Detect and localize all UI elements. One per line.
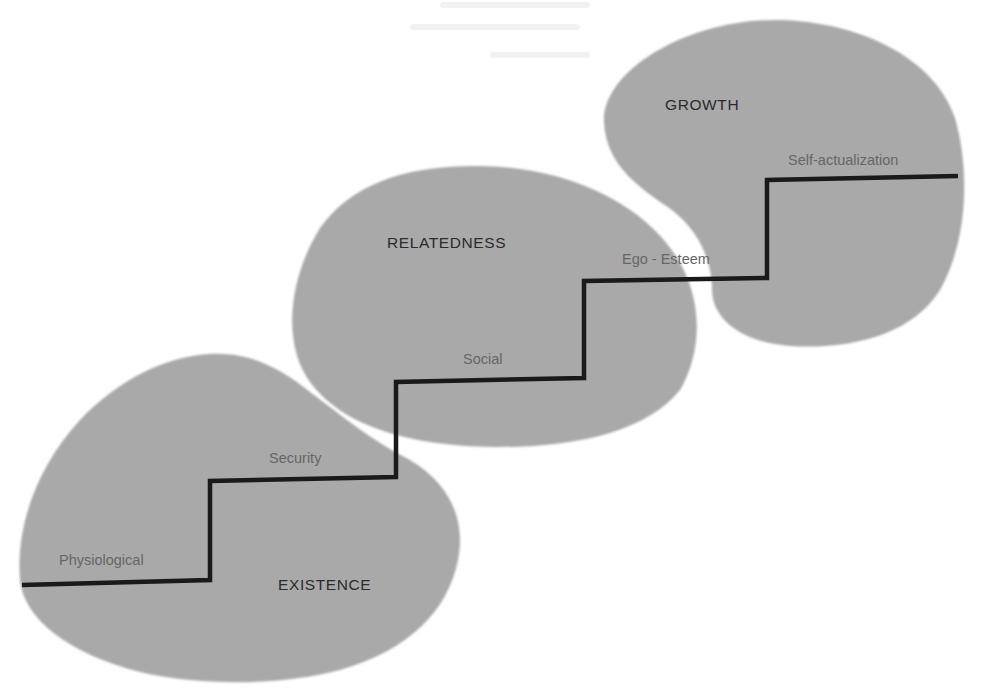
step-label-ego-esteem: Ego - Esteem [622,252,710,267]
group-label-growth: GROWTH [665,97,739,113]
step-label-self-actualization: Self-actualization [788,153,898,168]
step-label-security: Security [269,451,321,466]
step-label-social: Social [463,352,503,367]
step-label-physiological: Physiological [59,553,144,568]
relatedness-blob [292,166,697,447]
erg-diagram-canvas: GROWTH RELATEDNESS EXISTENCE Physiologic… [0,0,983,698]
group-label-relatedness: RELATEDNESS [387,235,506,251]
diagram-svg [0,0,983,698]
group-label-existence: EXISTENCE [278,577,371,593]
